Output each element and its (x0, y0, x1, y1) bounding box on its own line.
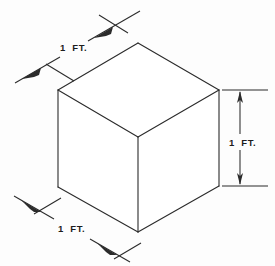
dimension-label-top-left: 1 FT. (60, 42, 87, 53)
dimension-line-top-left (15, 57, 60, 83)
extension-line-top-left-upper (99, 15, 128, 33)
isometric-cube-figure: 1 FT. 1 FT. 1 FT. (0, 0, 275, 266)
dimension-line-bottom-left-lower (90, 239, 130, 262)
dimension-label-bottom-left: 1 FT. (58, 223, 85, 234)
cube-drawing-canvas: 1 FT. 1 FT. 1 FT. (0, 0, 275, 266)
extension-line-bottom-left-lower (114, 243, 141, 259)
dimension-line-bottom-left-upper (14, 196, 54, 219)
dimension-line-top-left-upper-seg (88, 11, 140, 41)
dimension-right-vertical-edge: 1 FT. (222, 90, 268, 186)
extension-line-top-left-lower (46, 64, 74, 81)
dimension-label-right: 1 FT. (229, 137, 256, 148)
